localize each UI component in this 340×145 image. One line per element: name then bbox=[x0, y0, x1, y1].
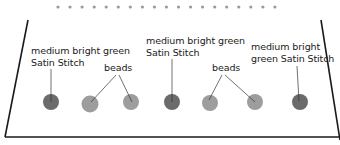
stitch-dot bbox=[273, 5, 276, 8]
stitch-dot bbox=[189, 5, 192, 8]
label-beads-1: beads bbox=[104, 62, 132, 74]
stitch-dot bbox=[225, 5, 228, 8]
bead-circle bbox=[82, 96, 99, 113]
label-line: medium bright bbox=[251, 41, 334, 53]
stitch-dot bbox=[56, 5, 59, 8]
bead-circle bbox=[123, 94, 139, 110]
stitch-dot bbox=[93, 5, 96, 8]
label-satin-stitch-3: medium bright green Satin Stitch bbox=[251, 41, 334, 65]
leader-line bbox=[91, 75, 116, 102]
stitch-dot bbox=[261, 5, 264, 8]
stitch-dot bbox=[237, 5, 240, 8]
label-line: beads bbox=[212, 62, 240, 74]
stitch-dot bbox=[81, 5, 84, 8]
stitch-dot bbox=[165, 5, 168, 8]
label-line: Satin Stitch bbox=[146, 47, 245, 59]
stitch-dot bbox=[105, 5, 108, 8]
top-dotted-stitch-line bbox=[56, 5, 276, 8]
label-line: medium bright green bbox=[31, 45, 130, 57]
stitch-dot bbox=[201, 5, 204, 8]
stitch-dot bbox=[117, 5, 120, 8]
stitch-dot bbox=[68, 5, 71, 8]
leader-line bbox=[225, 75, 255, 102]
satin-stitch-circle bbox=[292, 94, 308, 110]
label-line: beads bbox=[104, 62, 132, 74]
label-satin-stitch-2: medium bright green Satin Stitch bbox=[146, 35, 245, 59]
embroidery-diagram bbox=[0, 0, 340, 145]
stitch-elements bbox=[43, 94, 308, 113]
leader-line bbox=[209, 75, 222, 100]
stitch-dot bbox=[129, 5, 132, 8]
stitch-dot bbox=[141, 5, 144, 8]
stitch-dot bbox=[249, 5, 252, 8]
label-line: medium bright green bbox=[146, 35, 245, 47]
outline-right-edge bbox=[321, 20, 340, 140]
stitch-dot bbox=[153, 5, 156, 8]
label-beads-2: beads bbox=[212, 62, 240, 74]
outline-left-edge bbox=[5, 20, 28, 137]
stitch-dot bbox=[213, 5, 216, 8]
label-line: green Satin Stitch bbox=[251, 53, 334, 65]
stitch-dot bbox=[177, 5, 180, 8]
